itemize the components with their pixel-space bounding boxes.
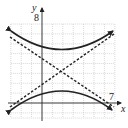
y-tick-label-8: 8 <box>34 12 39 23</box>
hyperbola-lower-branch <box>11 91 112 110</box>
x-axis-label: x <box>120 103 126 114</box>
grid <box>11 24 115 118</box>
asymptote-1 <box>10 34 114 107</box>
x-tick-label-7: 7 <box>109 91 114 102</box>
hyperbola-graph: y 8 7 x <box>0 0 128 128</box>
